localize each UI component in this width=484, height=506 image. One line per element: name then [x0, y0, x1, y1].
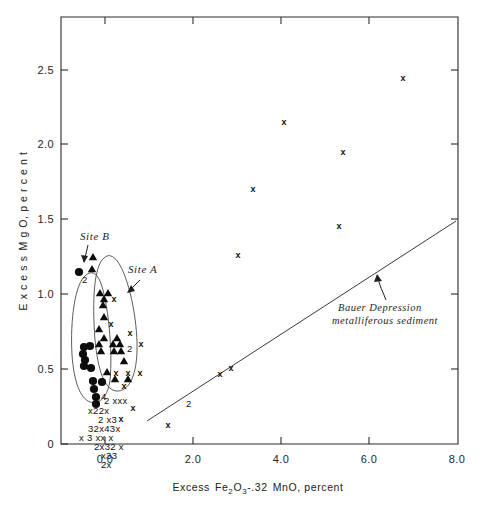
circle-marker [98, 378, 106, 386]
site-a-triangle-markers [88, 253, 132, 382]
circle-marker [89, 377, 97, 385]
bauer-annotation-line1: Bauer Depression [338, 302, 422, 313]
y-tick-labels: 0 0.5 1.0 1.5 2.0 2.5 [38, 64, 55, 450]
circle-marker [90, 385, 98, 393]
bauer-arrow-head [374, 274, 382, 282]
site-a-label: Site A [128, 263, 157, 275]
x-marker: x [217, 369, 222, 379]
triangle-marker [97, 347, 105, 354]
y-tick-label-1p0: 1.0 [38, 288, 55, 300]
dense-symbol-rows: 2 xxx x22x 2 x3 32x43x x 3 xx x 2x32 x x… [79, 395, 128, 470]
x-marker: x [125, 368, 130, 378]
triangle-marker [88, 265, 96, 272]
count-label: 2 [127, 343, 132, 354]
x-tick-labels: 0.0 2.0 4.0 6.0 8.0 [97, 453, 466, 465]
x-tick-label-2: 2.0 [185, 453, 202, 465]
x-axis-title: ExcessFe2O3-.32MnO, percent [172, 481, 343, 496]
scatter-plot-figure: 0 0.5 1.0 1.5 2.0 2.5 0.0 2.0 4.0 6.0 8.… [0, 0, 484, 506]
x-marker: x [165, 420, 170, 430]
dense-row: 2x [101, 459, 112, 470]
plot-canvas: 0 0.5 1.0 1.5 2.0 2.5 0.0 2.0 4.0 6.0 8.… [0, 0, 484, 506]
x-marker: x [137, 368, 142, 378]
x-marker: x [235, 250, 240, 260]
y-tick-label-0: 0 [47, 438, 54, 450]
y-tick-label-0p5: 0.5 [38, 363, 55, 375]
y-tick-label-2p5: 2.5 [38, 64, 55, 76]
x-tick-label-8: 8.0 [449, 453, 466, 465]
triangle-marker [95, 325, 103, 332]
x-axis-ticks [105, 17, 369, 444]
x-marker: x [281, 117, 286, 127]
triangle-marker [117, 347, 125, 354]
site-b-arrow-head [81, 255, 88, 263]
count-label: 2 [82, 274, 87, 285]
site-b-label: Site B [80, 230, 110, 242]
x-marker: x [111, 294, 116, 304]
count-label: 2 [186, 398, 191, 409]
x-tick-label-4: 4.0 [273, 453, 290, 465]
x-marker: x [113, 368, 118, 378]
triangle-marker [100, 313, 108, 320]
circle-marker [87, 364, 95, 372]
site-b-circle-markers [75, 268, 106, 408]
x-marker: x [336, 221, 341, 231]
triangle-marker [100, 334, 108, 341]
x-marker: x [400, 73, 405, 83]
circle-marker [92, 393, 100, 401]
x-marker: x [340, 147, 345, 157]
circle-marker [80, 362, 88, 370]
x-marker: x [108, 319, 113, 329]
triangle-marker [89, 253, 97, 260]
y-tick-label-2p0: 2.0 [38, 138, 55, 150]
axis-frame-rect [61, 17, 458, 444]
circle-marker [86, 342, 94, 350]
x-markers: x x x x x x x x x x x x x x x x x x x [108, 73, 405, 430]
plot-frame [61, 17, 458, 444]
triangle-marker [103, 368, 111, 375]
bauer-annotation-line2: metalliferous sediment [332, 315, 439, 326]
x-tick-label-6: 6.0 [361, 453, 378, 465]
x-marker: x [130, 403, 135, 413]
x-marker: x [121, 381, 126, 391]
x-marker: x [250, 184, 255, 194]
x-marker: x [228, 363, 233, 373]
y-axis-title: E x c e s sM g O, p e r c e n t [17, 152, 29, 311]
x-marker: x [138, 339, 143, 349]
triangle-marker [120, 357, 128, 364]
y-tick-label-1p5: 1.5 [38, 213, 55, 225]
x-marker: x [127, 328, 132, 338]
